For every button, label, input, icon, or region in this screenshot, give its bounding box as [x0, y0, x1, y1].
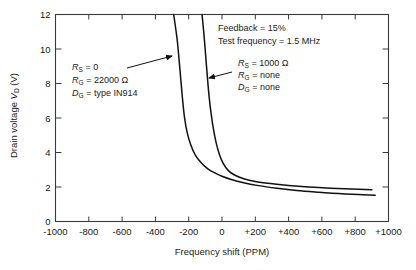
x-axis-tick-labels: -1000-800-600-400-2000+200+400+600+800+1… — [43, 226, 402, 237]
drain-voltage-vs-frequency-shift-chart: -1000-800-600-400-2000+200+400+600+800+1… — [0, 0, 416, 270]
y-tick-label: 0 — [45, 216, 50, 227]
x-tick-label: +600 — [311, 226, 332, 237]
x-tick-label: -400 — [146, 226, 165, 237]
y-tick-label: 6 — [45, 113, 50, 124]
x-tick-label: -1000 — [43, 226, 67, 237]
y-tick-label: 8 — [45, 78, 50, 89]
x-tick-label: +400 — [278, 226, 299, 237]
annotation-right-line-2: RG = none — [238, 70, 280, 81]
x-tick-label: +800 — [344, 226, 365, 237]
x-tick-label: -600 — [113, 226, 132, 237]
y-axis-title: Drain voltage VD (V) — [8, 73, 20, 158]
x-tick-label: +1000 — [375, 226, 402, 237]
annotation-test-frequency: Test frequency = 1.5 MHz — [218, 36, 321, 46]
chart-figure: -1000-800-600-400-2000+200+400+600+800+1… — [0, 0, 416, 270]
y-tick-label: 10 — [40, 44, 51, 55]
x-tick-label: 0 — [219, 226, 224, 237]
y-tick-label: 12 — [40, 9, 51, 20]
x-axis-title: Frequency shift (PPM) — [175, 246, 270, 257]
annotation-feedback: Feedback = 15% — [218, 23, 286, 33]
annotation-right-line-3: DG = none — [238, 82, 280, 93]
x-tick-label: +200 — [245, 226, 266, 237]
y-tick-label: 2 — [45, 182, 50, 193]
y-tick-label: 4 — [45, 147, 50, 158]
x-tick-label: -800 — [79, 226, 98, 237]
annotation-left-line-1: RS = 0 — [72, 62, 98, 73]
x-tick-label: -200 — [179, 226, 198, 237]
